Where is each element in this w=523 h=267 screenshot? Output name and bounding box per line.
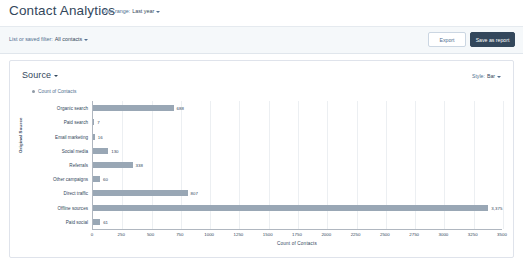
x-axis-tick-label: 1500 [263, 232, 273, 237]
bar-value-label: 60 [103, 177, 108, 182]
legend-label: Count of Contacts [38, 89, 76, 94]
x-axis-tick-label: 1750 [292, 232, 302, 237]
bar-value-label: 7 [97, 120, 99, 125]
x-axis-tick-label: 2250 [351, 232, 361, 237]
bar[interactable] [93, 119, 94, 125]
bar[interactable] [93, 190, 188, 196]
x-axis-tick-label: 250 [118, 232, 125, 237]
page-title: Contact Analytics [9, 3, 115, 18]
chevron-down-icon [84, 39, 88, 41]
chart-style-value: Bar [487, 73, 495, 79]
y-axis-category-label: Organic search [57, 106, 88, 111]
x-axis-tick-label: 3500 [497, 232, 507, 237]
bar-value-label: 3,375 [491, 205, 502, 210]
x-axis-tick-label: 1000 [204, 232, 214, 237]
bar-value-label: 130 [111, 148, 118, 153]
x-axis-tick-label: 0 [91, 232, 93, 237]
contact-analytics-page: Contact Analytics Date range:Last year L… [0, 0, 523, 267]
bar-value-label: 338 [136, 163, 143, 168]
bar[interactable] [93, 176, 100, 182]
bar-value-label: 688 [177, 106, 184, 111]
chart-title-dropdown[interactable]: Source [22, 70, 58, 80]
chevron-down-icon [54, 75, 58, 77]
bar[interactable] [93, 205, 488, 211]
chevron-down-icon [497, 76, 501, 78]
plot-grid-area: 688716130338608073,37561 [92, 101, 502, 229]
y-axis-category-label: Social media [62, 148, 88, 153]
top-header-bar: Contact Analytics Date range:Last year [0, 0, 523, 26]
y-axis-category-label: Email marketing [55, 134, 88, 139]
filter-toolbar: List or saved filter:All contacts Export… [0, 26, 523, 54]
date-range-selector[interactable]: Date range:Last year [102, 8, 160, 14]
legend-swatch-icon [32, 90, 35, 93]
chevron-down-icon [156, 11, 160, 13]
chart-style-selector[interactable]: Style:Bar [472, 73, 501, 79]
x-axis-tick-label: 2750 [409, 232, 419, 237]
date-range-value: Last year [132, 8, 154, 14]
chart-style-label: Style: [472, 73, 485, 79]
x-axis-line [92, 229, 502, 230]
bar[interactable] [93, 219, 100, 225]
y-axis-category-label: Paid search [64, 120, 88, 125]
x-axis-tick-label: 2500 [380, 232, 390, 237]
date-range-label: Date range: [102, 8, 130, 14]
bar-value-label: 61 [103, 219, 108, 224]
saved-filter-label: List or saved filter: [9, 36, 53, 42]
bar-value-label: 16 [98, 134, 103, 139]
export-button[interactable]: Export [428, 32, 466, 47]
chart-legend[interactable]: Count of Contacts [32, 89, 76, 94]
x-axis-tick-label: 1250 [234, 232, 244, 237]
save-as-report-button[interactable]: Save as report [470, 32, 515, 47]
x-axis-tick-label: 2000 [321, 232, 331, 237]
y-axis-category-label: Referrals [69, 163, 88, 168]
saved-filter-selector[interactable]: List or saved filter:All contacts [9, 36, 88, 42]
x-axis-title: Count of Contacts [92, 241, 502, 246]
y-axis-labels: Organic searchPaid searchEmail marketing… [26, 101, 92, 229]
bar[interactable] [93, 134, 95, 140]
x-axis-tick-label: 3250 [468, 232, 478, 237]
x-axis-tick-label: 750 [176, 232, 183, 237]
bar[interactable] [93, 105, 174, 111]
bar-chart-plot: Original Source Organic searchPaid searc… [10, 101, 515, 259]
y-axis-category-label: Paid social [66, 219, 88, 224]
grid-line [503, 101, 504, 229]
bar[interactable] [93, 148, 108, 154]
y-axis-category-label: Other campaigns [53, 177, 88, 182]
y-axis-category-label: Direct traffic [64, 191, 88, 196]
chart-title-label: Source [22, 70, 51, 80]
y-axis-category-label: Offline sources [57, 205, 88, 210]
x-axis-tick-label: 500 [147, 232, 154, 237]
saved-filter-value: All contacts [55, 36, 83, 42]
bar[interactable] [93, 162, 133, 168]
bar-value-label: 807 [191, 191, 198, 196]
chart-card: Source Style:Bar Count of Contacts Origi… [9, 60, 514, 258]
y-axis-title: Original Source [18, 117, 23, 153]
x-axis-tick-label: 3000 [439, 232, 449, 237]
